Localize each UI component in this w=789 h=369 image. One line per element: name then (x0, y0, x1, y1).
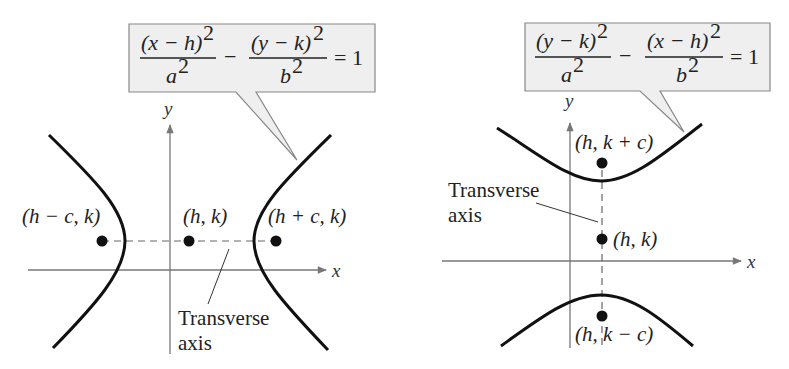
eq-term1-num-exp: 2 (203, 20, 214, 45)
eq-term1-denominator: a (561, 62, 572, 87)
eq-term2-den-exp: 2 (292, 53, 303, 78)
eq-term2-den-exp: 2 (688, 52, 699, 77)
eq-rhs: = 1 (334, 45, 363, 70)
hyperbola-figure: x y (h − c, k) (h, k) (h + c, k) Transve… (0, 0, 789, 369)
right-focus-label: (h + c, k) (268, 204, 346, 228)
eq-term2-denominator: b (676, 62, 687, 87)
eq-term1-denominator: a (166, 63, 177, 88)
eq-term2-numerator: (x − h) (647, 28, 708, 53)
center-label: (h, k) (613, 227, 657, 251)
equation-callout: (x − h) 2 a 2 − (y − k) 2 b 2 = 1 (129, 20, 375, 160)
eq-minus: − (619, 43, 631, 68)
vertical-hyperbola-diagram: x y (h, k + c) (h, k) (h, k − c) Transve… (442, 18, 770, 348)
transverse-label-line2: axis (178, 331, 212, 355)
right-focus-point (271, 236, 282, 247)
center-point (184, 236, 195, 247)
x-axis-label: x (746, 251, 756, 272)
transverse-label-line1: Transverse (448, 178, 539, 202)
eq-term1-numerator: (y − k) (536, 28, 596, 53)
transverse-leader-line (536, 203, 598, 222)
eq-term2-num-exp: 2 (710, 18, 721, 43)
transverse-leader-line (208, 249, 229, 304)
horizontal-hyperbola-diagram: x y (h − c, k) (h, k) (h + c, k) Transve… (22, 20, 375, 355)
eq-term2-denominator: b (280, 63, 291, 88)
eq-term2-numerator: (y − k) (251, 30, 311, 55)
eq-rhs: = 1 (730, 44, 759, 69)
x-axis-label: x (331, 260, 341, 281)
eq-term2-num-exp: 2 (313, 20, 324, 45)
eq-term1-numerator: (x − h) (141, 30, 202, 55)
equation-callout: (y − k) 2 a 2 − (x − h) 2 b 2 = 1 (525, 18, 770, 132)
transverse-label-line2: axis (448, 203, 482, 227)
eq-term1-den-exp: 2 (178, 53, 189, 78)
eq-term1-num-exp: 2 (597, 18, 608, 43)
eq-minus: − (224, 44, 236, 69)
eq-term1-den-exp: 2 (573, 52, 584, 77)
center-label: (h, k) (183, 204, 227, 228)
center-point (597, 234, 608, 245)
transverse-label-line1: Transverse (178, 306, 269, 330)
top-focus-point (597, 158, 608, 169)
bottom-focus-point (597, 311, 608, 322)
y-axis-label: y (563, 90, 574, 111)
left-focus-point (97, 236, 108, 247)
y-axis-label: y (162, 98, 173, 119)
bottom-focus-label: (h, k − c) (575, 322, 653, 346)
hyperbola-left-branch (49, 135, 125, 348)
left-focus-label: (h − c, k) (22, 204, 100, 228)
top-focus-label: (h, k + c) (575, 130, 653, 154)
